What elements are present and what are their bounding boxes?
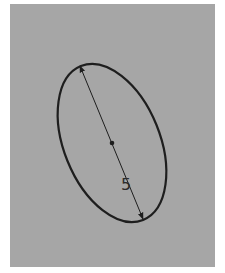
dimension-label[interactable]: 5: [121, 175, 131, 194]
sketch-drawing: 5: [0, 0, 225, 273]
ellipse-center-point[interactable]: [110, 141, 115, 146]
